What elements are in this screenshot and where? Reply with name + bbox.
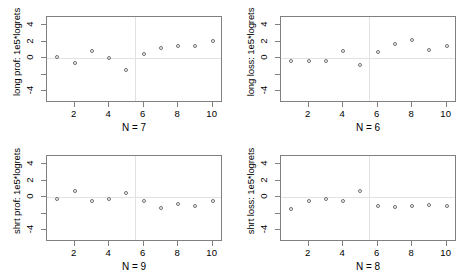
data-point <box>90 49 94 53</box>
x-axis-tick <box>342 102 343 107</box>
data-point <box>124 191 128 195</box>
x-axis-tick <box>377 102 378 107</box>
data-point <box>445 44 449 48</box>
x-axis-tick <box>143 241 144 246</box>
x-axis-tick-label: 4 <box>331 247 353 258</box>
zero-reference-line <box>47 197 221 198</box>
data-point <box>107 197 111 201</box>
data-point <box>427 203 431 207</box>
y-axis-tick-label: 2 <box>259 33 269 49</box>
data-point <box>410 38 414 42</box>
x-axis-tick-label: 6 <box>132 108 154 119</box>
y-axis-tick-label: 4 <box>259 16 269 32</box>
y-axis-tick-label: 2 <box>25 33 35 49</box>
data-point <box>358 189 362 193</box>
x-axis-tick-label: 10 <box>435 108 457 119</box>
x-axis-tick-label: 6 <box>132 247 154 258</box>
x-axis-tick <box>143 102 144 107</box>
split-reference-line <box>369 17 370 101</box>
data-point <box>142 52 146 56</box>
data-point <box>376 204 380 208</box>
data-point <box>142 199 146 203</box>
plot-inner <box>281 17 455 101</box>
data-point <box>393 205 397 209</box>
x-axis-tick <box>74 102 75 107</box>
y-axis-tick-label: 0 <box>259 188 269 204</box>
x-axis-tick-label: 8 <box>166 247 188 258</box>
figure-panel-grid: long prof: 1e5*logrets-4024246810N = 7lo… <box>0 0 468 278</box>
split-reference-line <box>135 17 136 101</box>
y-axis-tick-label: 4 <box>259 155 269 171</box>
x-axis-tick-label: 2 <box>63 108 85 119</box>
y-axis-tick-label: -4 <box>259 82 269 98</box>
x-axis-tick-label: 10 <box>201 108 223 119</box>
x-axis-tick <box>411 241 412 246</box>
y-axis-label: shrt prof: 1e5*logrets <box>12 131 22 251</box>
data-point <box>73 61 77 65</box>
data-point <box>159 46 163 50</box>
data-point <box>176 202 180 206</box>
plot-inner <box>47 156 221 240</box>
x-axis-tick-label: 8 <box>166 108 188 119</box>
data-point <box>124 68 128 72</box>
data-point <box>324 197 328 201</box>
x-axis-tick <box>377 241 378 246</box>
scatter-panel-top-left: long prof: 1e5*logrets-4024246810N = 7 <box>0 0 234 139</box>
x-axis-tick-label: 2 <box>297 108 319 119</box>
data-point <box>211 39 215 43</box>
y-axis-tick-label: 4 <box>25 16 35 32</box>
split-reference-line <box>135 156 136 240</box>
x-axis-tick <box>108 241 109 246</box>
data-point <box>324 59 328 63</box>
y-axis-tick-label: 0 <box>25 188 35 204</box>
x-axis-tick <box>212 102 213 107</box>
data-point <box>376 50 380 54</box>
x-axis-tick-label: 2 <box>297 247 319 258</box>
plot-area <box>280 16 456 102</box>
x-axis-tick <box>342 241 343 246</box>
data-point <box>193 204 197 208</box>
x-axis-tick-label: 10 <box>201 247 223 258</box>
data-point <box>341 49 345 53</box>
y-axis-tick-label: -4 <box>259 221 269 237</box>
zero-reference-line <box>47 58 221 59</box>
scatter-panel-top-right: long loss: 1e5*logrets-4024246810N = 6 <box>234 0 468 139</box>
y-axis-tick-label: 4 <box>25 155 35 171</box>
y-axis-label: long loss: 1e5*logrets <box>246 0 256 112</box>
data-point <box>307 199 311 203</box>
split-reference-line <box>369 156 370 240</box>
scatter-panel-bottom-right: shrt loss: 1e5*logrets-4024246810N = 8 <box>234 139 468 278</box>
data-point <box>176 44 180 48</box>
x-axis-tick-label: 8 <box>400 247 422 258</box>
data-point <box>289 207 293 211</box>
x-axis-tick <box>74 241 75 246</box>
data-point <box>107 56 111 60</box>
plot-area <box>46 16 222 102</box>
scatter-panel-bottom-left: shrt prof: 1e5*logrets-4024246810N = 9 <box>0 139 234 278</box>
x-axis-tick <box>108 102 109 107</box>
data-point <box>307 59 311 63</box>
x-axis-tick-label: 8 <box>400 108 422 119</box>
y-axis-label: long prof: 1e5*logrets <box>12 0 22 112</box>
data-point <box>73 189 77 193</box>
x-axis-tick-label: 6 <box>366 247 388 258</box>
x-axis-label: N = 8 <box>280 261 456 272</box>
plot-area <box>280 155 456 241</box>
x-axis-label: N = 7 <box>46 122 222 133</box>
data-point <box>159 206 163 210</box>
x-axis-tick-label: 6 <box>366 108 388 119</box>
x-axis-tick-label: 4 <box>97 108 119 119</box>
data-point <box>393 42 397 46</box>
y-axis-tick-label: 2 <box>25 172 35 188</box>
x-axis-tick <box>446 241 447 246</box>
x-axis-tick-label: 4 <box>331 108 353 119</box>
data-point <box>427 48 431 52</box>
y-axis-tick-label: 0 <box>25 49 35 65</box>
x-axis-tick <box>177 102 178 107</box>
data-point <box>211 199 215 203</box>
plot-inner <box>281 156 455 240</box>
y-axis-tick-label: -4 <box>25 221 35 237</box>
plot-inner <box>47 17 221 101</box>
data-point <box>341 199 345 203</box>
x-axis-tick-label: 4 <box>97 247 119 258</box>
